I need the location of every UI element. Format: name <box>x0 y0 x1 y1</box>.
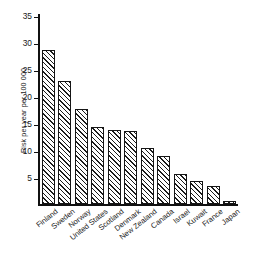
x-axis-line <box>38 204 238 207</box>
y-tick-mark <box>34 17 39 19</box>
y-tick-label: 5 <box>27 173 32 183</box>
x-axis-labels: FinlandSwedenNorwayUnited StatesScotland… <box>38 207 248 259</box>
y-tick-label: 10 <box>23 146 32 156</box>
y-tick-mark <box>34 44 39 46</box>
y-tick-label: 15 <box>23 119 32 129</box>
bar <box>108 130 121 204</box>
y-axis-title: Risk per year per 100 000 <box>19 36 28 186</box>
plot-area: 5101520253035 <box>38 14 238 206</box>
bar <box>141 148 154 203</box>
bar <box>42 50 55 204</box>
bar <box>157 156 170 203</box>
x-tick-label: Japan <box>219 207 241 227</box>
bar <box>124 131 137 204</box>
y-tick-label: 25 <box>23 65 32 75</box>
y-tick-mark <box>34 125 39 127</box>
bar-series <box>40 14 238 204</box>
bar <box>223 201 236 204</box>
y-tick-label: 30 <box>23 38 32 48</box>
y-tick-mark <box>34 152 39 154</box>
y-tick-label: 35 <box>23 11 32 21</box>
bar <box>207 186 220 204</box>
y-tick-mark <box>34 98 39 100</box>
y-tick-mark <box>34 71 39 73</box>
bar-chart-figure: Risk per year per 100 000 5101520253035 … <box>0 0 258 261</box>
bar <box>58 81 71 203</box>
bar <box>174 174 187 203</box>
y-tick-label: 20 <box>23 92 32 102</box>
y-tick-mark <box>34 179 39 181</box>
bar <box>91 127 104 203</box>
bar <box>75 109 88 203</box>
bar <box>190 181 203 203</box>
